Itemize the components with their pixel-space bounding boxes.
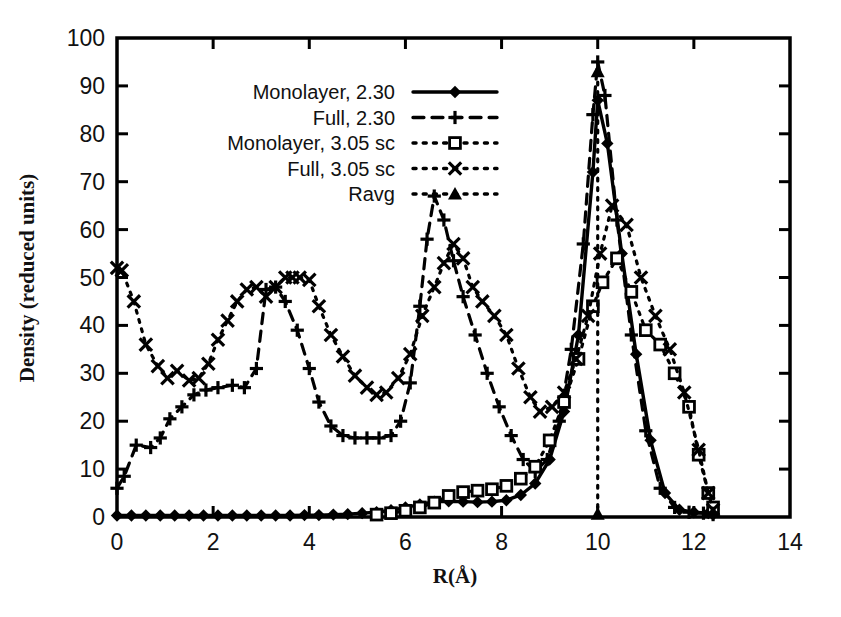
legend-label-4: Ravg — [348, 183, 395, 205]
y-tick-label: 50 — [79, 265, 105, 291]
data-point-open-square — [450, 138, 461, 149]
data-point-open-square — [443, 491, 454, 502]
x-axis-title: R(Å) — [433, 564, 477, 588]
data-point-open-square — [530, 461, 541, 472]
x-tick-label: 12 — [681, 529, 707, 555]
y-tick-label: 20 — [79, 408, 105, 434]
chart-figure: 02468101214 0102030405060708090100 Monol… — [0, 0, 841, 617]
x-tick-label: 6 — [399, 529, 412, 555]
y-tick-label: 10 — [79, 456, 105, 482]
data-point-open-square — [414, 502, 425, 513]
y-tick-label: 100 — [67, 25, 105, 51]
x-tick-label: 0 — [111, 529, 124, 555]
legend-label-1: Full, 2.30 — [313, 107, 395, 129]
y-tick-label: 80 — [79, 121, 105, 147]
data-point-open-square — [458, 487, 469, 498]
y-axis-title: Density (reduced units) — [15, 174, 39, 382]
data-point-open-square — [544, 435, 555, 446]
data-point-open-square — [371, 509, 382, 520]
density-line-chart: 02468101214 0102030405060708090100 Monol… — [0, 0, 841, 617]
data-point-open-square — [626, 286, 637, 297]
y-tick-label: 40 — [79, 312, 105, 338]
x-tick-label: 14 — [777, 529, 803, 555]
data-point-open-square — [429, 497, 440, 508]
y-tick-label: 30 — [79, 360, 105, 386]
y-tick-label: 0 — [92, 504, 105, 530]
data-point-open-square — [487, 484, 498, 495]
y-tick-label: 60 — [79, 217, 105, 243]
y-tick-label: 90 — [79, 73, 105, 99]
data-point-open-square — [612, 253, 623, 264]
x-tick-label: 10 — [585, 529, 611, 555]
data-point-open-square — [640, 325, 651, 336]
x-tick-label: 2 — [207, 529, 220, 555]
data-point-open-square — [472, 485, 483, 496]
x-tick-label: 4 — [303, 529, 316, 555]
data-point-open-square — [400, 505, 411, 516]
data-point-open-square — [501, 480, 512, 491]
data-point-open-square — [515, 473, 526, 484]
x-tick-label: 8 — [495, 529, 508, 555]
legend-label-3: Full, 3.05 sc — [287, 158, 395, 180]
legend-label-2: Monolayer, 3.05 sc — [227, 132, 395, 154]
data-point-open-square — [386, 508, 397, 519]
y-tick-label: 70 — [79, 169, 105, 195]
legend-label-0: Monolayer, 2.30 — [253, 81, 395, 103]
